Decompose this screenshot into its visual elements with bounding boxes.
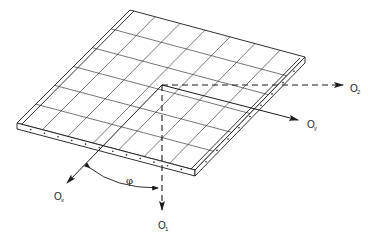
bolt-dot [44, 132, 46, 134]
svg-text:y: y [314, 125, 317, 131]
svg-text:2: 2 [357, 89, 361, 95]
bolt-dot [293, 71, 295, 73]
bolt-dot [282, 82, 284, 84]
bolt-dot [30, 129, 32, 131]
plate-diagram: O 2 O y O 1 O x φ [0, 0, 369, 240]
axis-label-oy: O y [307, 119, 317, 131]
bolt-dot [85, 143, 87, 145]
bolt-dot [98, 147, 100, 149]
svg-text:1: 1 [165, 226, 169, 232]
angle-phi-arc [90, 168, 158, 188]
axis-label-ox: O x [54, 191, 64, 203]
bolt-dot [167, 165, 169, 167]
bolt-dot [139, 158, 141, 160]
bolt-dot [153, 161, 155, 163]
angle-phi-label: φ [126, 175, 133, 186]
axis-label-o2: O 2 [350, 83, 361, 95]
bolt-dot [71, 140, 73, 142]
bolt-dot [238, 127, 240, 129]
bolt-dot [216, 150, 218, 152]
bolt-dot [57, 136, 59, 138]
axis-label-o1: O 1 [158, 220, 169, 232]
bolt-dot [249, 116, 251, 118]
svg-text:x: x [61, 197, 64, 203]
bolt-dot [227, 138, 229, 140]
bolt-dot [181, 169, 183, 171]
bolt-dot [271, 93, 273, 95]
bolt-dot [112, 151, 114, 153]
bolt-dot [260, 104, 262, 106]
bolt-dot [126, 154, 128, 156]
bolt-dot [205, 161, 207, 163]
